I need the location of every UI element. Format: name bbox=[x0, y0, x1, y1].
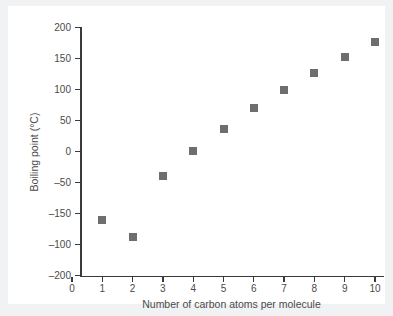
x-tick-label: 2 bbox=[121, 284, 145, 294]
x-axis-line bbox=[80, 276, 384, 278]
y-tick-label: 0 bbox=[39, 147, 71, 157]
y-tick-label: –50 bbox=[39, 178, 71, 188]
x-tick-label: 0 bbox=[60, 284, 84, 294]
x-tick-label: 4 bbox=[181, 284, 205, 294]
x-tick-label: 7 bbox=[272, 284, 296, 294]
data-point bbox=[371, 38, 379, 46]
y-tick-mark bbox=[75, 213, 80, 214]
x-tick-label: 5 bbox=[212, 284, 236, 294]
x-tick-label: 1 bbox=[90, 284, 114, 294]
x-tick-mark bbox=[223, 277, 224, 282]
y-tick-mark bbox=[75, 120, 80, 121]
y-tick-label: –150 bbox=[39, 209, 71, 219]
y-tick-label: 200 bbox=[39, 23, 71, 33]
y-tick-mark bbox=[75, 244, 80, 245]
x-tick-label: 10 bbox=[363, 284, 387, 294]
data-point bbox=[341, 53, 349, 61]
x-axis-title: Number of carbon atoms per molecule bbox=[80, 298, 383, 310]
data-point bbox=[310, 69, 318, 77]
y-tick-mark bbox=[75, 275, 80, 276]
y-tick-label: 50 bbox=[39, 116, 71, 126]
x-tick-mark bbox=[162, 277, 163, 282]
y-tick-mark bbox=[75, 58, 80, 59]
x-tick-label: 8 bbox=[302, 284, 326, 294]
x-tick-label: 3 bbox=[151, 284, 175, 294]
x-tick-mark bbox=[374, 277, 375, 282]
x-tick-mark bbox=[102, 277, 103, 282]
x-tick-mark bbox=[344, 277, 345, 282]
x-tick-mark bbox=[132, 277, 133, 282]
x-tick-mark bbox=[314, 277, 315, 282]
x-tick-label: 9 bbox=[333, 284, 357, 294]
x-tick-mark bbox=[193, 277, 194, 282]
x-tick-mark bbox=[71, 277, 72, 282]
data-point bbox=[220, 125, 228, 133]
data-point bbox=[189, 147, 197, 155]
data-point bbox=[129, 233, 137, 241]
y-tick-mark bbox=[75, 182, 80, 183]
x-tick-mark bbox=[283, 277, 284, 282]
x-tick-mark bbox=[253, 277, 254, 282]
y-axis-line bbox=[80, 27, 82, 277]
x-tick-label: 6 bbox=[242, 284, 266, 294]
y-tick-label: –200 bbox=[39, 271, 71, 281]
y-tick-label: 100 bbox=[39, 85, 71, 95]
data-point bbox=[159, 172, 167, 180]
data-point bbox=[250, 104, 258, 112]
chart-figure: Boiling point (°C) Number of carbon atom… bbox=[0, 0, 393, 316]
y-tick-mark bbox=[75, 151, 80, 152]
y-tick-label: –100 bbox=[39, 240, 71, 250]
y-tick-label: 150 bbox=[39, 54, 71, 64]
data-point bbox=[280, 86, 288, 94]
y-tick-mark bbox=[75, 89, 80, 90]
y-tick-mark bbox=[75, 27, 80, 28]
plot-canvas: Boiling point (°C) Number of carbon atom… bbox=[8, 6, 385, 304]
data-point bbox=[98, 216, 106, 224]
